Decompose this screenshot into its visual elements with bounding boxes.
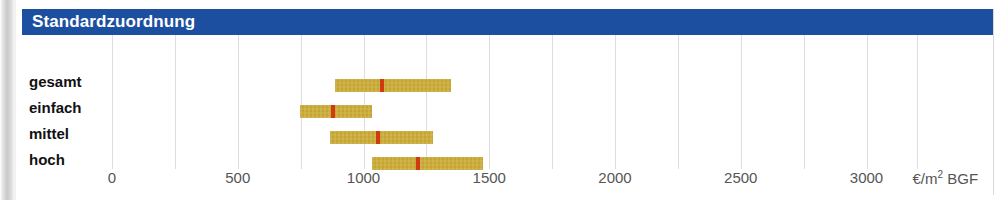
gridline bbox=[301, 35, 302, 169]
gridline bbox=[175, 35, 176, 169]
median-marker-hoch bbox=[416, 157, 420, 170]
plot-area: 050010001500200025003000€/m2 BGFgesamtei… bbox=[22, 35, 993, 195]
scanned-page-edge bbox=[14, 0, 16, 200]
x-axis-unit-label: €/m2 BGF bbox=[913, 169, 979, 187]
x-axis-tick-label: 1500 bbox=[473, 169, 506, 186]
chart-panel: Standardzuordnung 0500100015002000250030… bbox=[22, 9, 994, 195]
row-label-gesamt: gesamt bbox=[29, 73, 82, 90]
screenshot-root: Standardzuordnung 0500100015002000250030… bbox=[0, 0, 1004, 200]
page-title: Standardzuordnung bbox=[32, 12, 195, 32]
gridline bbox=[364, 35, 365, 169]
panel-title-bar: Standardzuordnung bbox=[22, 9, 993, 35]
row-label-mittel: mittel bbox=[29, 125, 69, 142]
gridline bbox=[804, 35, 805, 169]
x-axis-tick-label: 3000 bbox=[850, 169, 883, 186]
x-axis-tick-label: 500 bbox=[225, 169, 250, 186]
gridline bbox=[615, 35, 616, 169]
gridline bbox=[741, 35, 742, 169]
x-axis-tick-label: 0 bbox=[108, 169, 116, 186]
gridline bbox=[489, 35, 490, 169]
x-axis-tick-label: 2500 bbox=[724, 169, 757, 186]
gridline bbox=[552, 35, 553, 169]
range-bar-gesamt bbox=[335, 79, 451, 92]
median-marker-mittel bbox=[376, 131, 380, 144]
gridline bbox=[867, 35, 868, 169]
gridline bbox=[426, 35, 427, 169]
range-bar-hoch bbox=[372, 157, 483, 170]
gridline bbox=[917, 35, 918, 169]
panel-right-border bbox=[993, 9, 994, 195]
row-label-hoch: hoch bbox=[29, 151, 65, 168]
row-label-einfach: einfach bbox=[29, 99, 82, 116]
range-bar-einfach bbox=[300, 105, 372, 118]
gridline bbox=[238, 35, 239, 169]
gridline bbox=[112, 35, 113, 169]
scanned-page-gutter bbox=[0, 0, 14, 200]
x-axis-tick-label: 1000 bbox=[347, 169, 380, 186]
median-marker-einfach bbox=[331, 105, 335, 118]
x-axis-tick-label: 2000 bbox=[598, 169, 631, 186]
range-bar-mittel bbox=[330, 131, 433, 144]
median-marker-gesamt bbox=[380, 79, 384, 92]
gridline bbox=[678, 35, 679, 169]
